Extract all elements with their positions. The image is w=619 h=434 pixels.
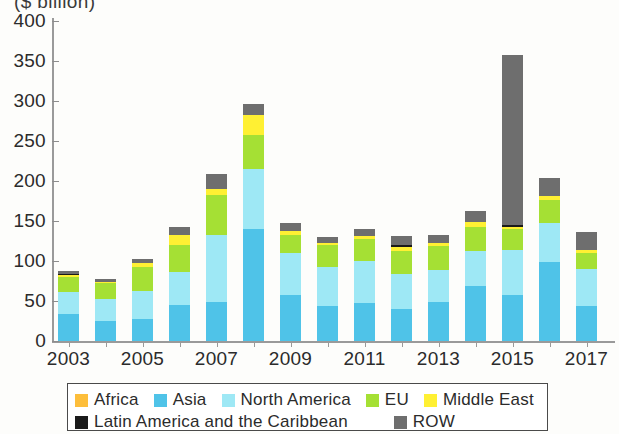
bar-segment: [243, 229, 264, 341]
bar-segment: [354, 229, 375, 236]
bar-segment: [58, 314, 79, 341]
legend-row-primary: AfricaAsiaNorth AmericaEUMiddle East: [75, 389, 540, 411]
legend-label: North America: [241, 390, 351, 410]
bar-segment: [317, 267, 338, 305]
bar-segment: [206, 235, 227, 301]
x-axis-tick: [180, 341, 181, 347]
color-swatch-icon: [154, 394, 167, 407]
bar-2007: [206, 174, 227, 341]
color-swatch-icon: [75, 416, 88, 429]
color-swatch-icon: [366, 394, 379, 407]
bar-2010: [317, 237, 338, 341]
bar-2017: [576, 232, 597, 341]
bar-segment: [169, 227, 190, 236]
legend-label: Africa: [94, 390, 139, 410]
bar-2006: [169, 227, 190, 341]
bar-2011: [354, 229, 375, 341]
legend-item: Middle East: [424, 390, 534, 410]
bar-segment: [169, 235, 190, 245]
x-axis-tick: [550, 341, 551, 347]
legend-label: Latin America and the Caribbean: [94, 412, 348, 432]
x-axis-label: 2007: [185, 348, 249, 370]
bar-segment: [576, 253, 597, 269]
bar-segment: [243, 104, 264, 114]
legend-label: Middle East: [443, 390, 534, 410]
bar-segment: [206, 302, 227, 341]
x-axis-label: 2003: [37, 348, 101, 370]
color-swatch-icon: [222, 394, 235, 407]
bar-2004: [95, 279, 116, 341]
legend-item: EU: [366, 390, 409, 410]
bar-segment: [465, 211, 486, 222]
bar-segment: [391, 274, 412, 309]
bar-segment: [317, 245, 338, 267]
bar-segment: [391, 309, 412, 341]
plot-area: 050100150200250300350400 200320052007200…: [0, 0, 619, 360]
x-axis-label: 2017: [555, 348, 619, 370]
legend-item: ROW: [394, 412, 455, 432]
bar-segment: [576, 269, 597, 306]
legend-label: ROW: [413, 412, 455, 432]
bar-segment: [539, 262, 560, 341]
bar-segment: [58, 277, 79, 292]
bar-segment: [465, 286, 486, 341]
bar-segment: [354, 239, 375, 261]
x-axis-tick: [587, 341, 588, 347]
bar-segment: [465, 251, 486, 285]
y-axis-tick: [52, 341, 59, 342]
legend-item: Latin America and the Caribbean: [75, 412, 348, 432]
bar-segment: [428, 246, 449, 270]
bar-2015: [502, 55, 523, 341]
x-axis-tick: [106, 341, 107, 347]
bar-2014: [465, 211, 486, 341]
bar-segment: [428, 270, 449, 302]
bar-2008: [243, 104, 264, 341]
bar-segment: [132, 319, 153, 341]
x-axis-tick: [328, 341, 329, 347]
bar-segment: [502, 250, 523, 295]
bar-segment: [354, 261, 375, 303]
x-axis-tick: [439, 341, 440, 347]
bar-segment: [169, 245, 190, 272]
bar-segment: [280, 295, 301, 341]
bar-2005: [132, 259, 153, 341]
x-axis-tick: [143, 341, 144, 347]
bars-container: [0, 0, 619, 341]
legend-row-secondary: Latin America and the CaribbeanROW: [75, 411, 540, 433]
bar-segment: [280, 223, 301, 230]
x-axis-label: 2015: [481, 348, 545, 370]
legend-item: North America: [222, 390, 351, 410]
bar-segment: [243, 115, 264, 135]
bar-segment: [465, 227, 486, 252]
x-axis-label: 2011: [333, 348, 397, 370]
bar-segment: [243, 135, 264, 169]
bar-segment: [206, 174, 227, 189]
bar-segment: [539, 223, 560, 261]
chart-legend: AfricaAsiaNorth AmericaEUMiddle East Lat…: [67, 383, 548, 431]
bar-segment: [169, 272, 190, 305]
color-swatch-icon: [394, 416, 407, 429]
legend-label: EU: [385, 390, 409, 410]
bar-segment: [58, 292, 79, 314]
bar-segment: [539, 178, 560, 196]
x-axis-line: [52, 341, 615, 343]
color-swatch-icon: [75, 394, 88, 407]
x-axis-tick: [365, 341, 366, 347]
bar-segment: [539, 200, 560, 223]
bar-2013: [428, 235, 449, 341]
bar-segment: [576, 232, 597, 250]
bar-segment: [132, 291, 153, 319]
bar-segment: [391, 251, 412, 274]
x-axis-tick: [513, 341, 514, 347]
x-axis-tick: [217, 341, 218, 347]
bar-segment: [576, 306, 597, 341]
bar-segment: [280, 235, 301, 253]
x-axis-label: 2009: [259, 348, 323, 370]
bar-segment: [428, 235, 449, 243]
bar-2012: [391, 236, 412, 341]
bar-segment: [95, 299, 116, 321]
x-axis-tick: [402, 341, 403, 347]
bar-segment: [132, 267, 153, 291]
bar-segment: [280, 253, 301, 295]
bar-segment: [428, 302, 449, 341]
